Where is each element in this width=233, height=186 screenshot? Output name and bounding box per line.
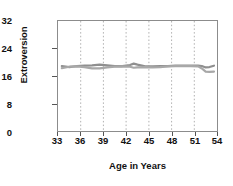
- y-tick-label: 8: [0, 100, 12, 109]
- data-line-series-2: [62, 66, 214, 72]
- y-tick-label: 16: [0, 72, 12, 81]
- x-tick-label: 36: [69, 136, 91, 146]
- plot-area: [57, 20, 218, 132]
- x-axis-title: Age in Years: [57, 160, 218, 171]
- x-tick-label: 33: [46, 136, 68, 146]
- x-tick-label: 54: [206, 136, 228, 146]
- x-tick-label: 51: [184, 136, 206, 146]
- x-tick-label: 48: [161, 136, 183, 146]
- y-axis-title: Extroversion: [17, 5, 31, 105]
- x-tick-label: 45: [138, 136, 160, 146]
- x-tick-label: 42: [115, 136, 137, 146]
- plot-svg: [58, 21, 217, 131]
- y-tick-label: 24: [0, 44, 12, 53]
- gridlines: [81, 21, 195, 131]
- chart-container: Extroversion 32 24 16 8 0 33 36 39 42 45…: [0, 0, 233, 186]
- y-tick-label: 32: [0, 16, 12, 25]
- x-tick-label: 39: [92, 136, 114, 146]
- y-tick-label: 0: [0, 128, 12, 137]
